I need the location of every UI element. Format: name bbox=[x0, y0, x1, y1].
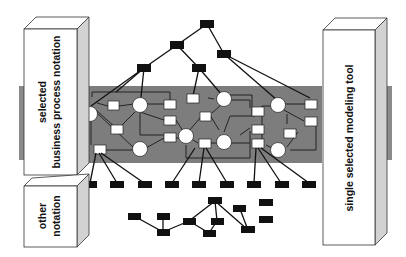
modeling-tool-box: single selected modeling tool bbox=[323, 18, 387, 245]
selected-notation-box: selected business process notation bbox=[24, 17, 89, 175]
left-stripe bbox=[19, 86, 24, 160]
bottom-row-nodes bbox=[83, 181, 316, 188]
right-stripe bbox=[387, 86, 392, 160]
selected-notation-label-1: selected bbox=[36, 81, 48, 123]
other-notation-label-1: other bbox=[36, 203, 48, 229]
other-notation-box: other notation bbox=[24, 174, 89, 247]
lower-tree bbox=[128, 197, 273, 237]
upper-tree-nodes bbox=[137, 20, 231, 72]
selected-notation-label-2: business process notation bbox=[50, 35, 62, 168]
other-notation-label-2: notation bbox=[50, 195, 62, 236]
process-notation-diagram: selected business process notation other… bbox=[0, 0, 406, 257]
modeling-tool-label: single selected modeling tool bbox=[343, 64, 355, 211]
